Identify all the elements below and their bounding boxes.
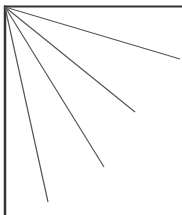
diagram-canvas (0, 0, 182, 215)
ray-3 (5, 7, 104, 167)
ray-1 (5, 7, 180, 59)
